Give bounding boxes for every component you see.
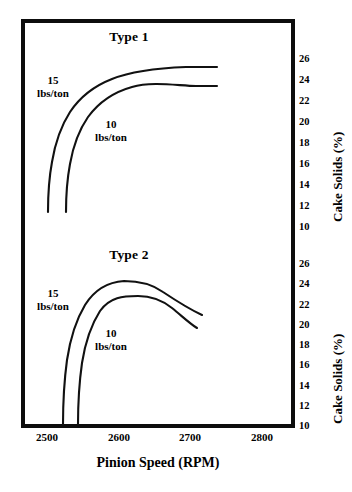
- y-tick-type1-22: 22: [299, 95, 321, 106]
- y-tick-type1-10: 10: [299, 221, 321, 232]
- annotation-type1-15lbs-unit: lbs/ton: [37, 87, 69, 99]
- annotation-type1-10lbs: 10 lbs/ton: [84, 118, 138, 143]
- annotation-type2-15lbs: 15 lbs/ton: [26, 287, 80, 312]
- y-tick-type2-12: 12: [299, 400, 321, 411]
- y-tick-type1-14: 14: [299, 179, 321, 190]
- annotation-type2-10lbs-unit: lbs/ton: [95, 340, 127, 352]
- figure: Type 1 Type 2 15 lbs/ton 10 lbs/ton 15 l…: [0, 0, 352, 492]
- x-tick-2500: 2500: [25, 431, 69, 443]
- y-tick-type2-22: 22: [299, 299, 321, 310]
- x-axis-title: Pinion Speed (RPM): [41, 455, 275, 471]
- x-tick-2800: 2800: [240, 431, 284, 443]
- y-tick-type2-14: 14: [299, 380, 321, 391]
- panel-title-type-1: Type 1: [84, 29, 174, 45]
- panel-title-type-2: Type 2: [84, 247, 174, 263]
- annotation-type2-15lbs-value: 15: [48, 287, 59, 299]
- annotation-type1-10lbs-unit: lbs/ton: [95, 131, 127, 143]
- x-tick-2700: 2700: [168, 431, 212, 443]
- y-axis-title-type-2: Cake Solids (%): [330, 334, 346, 424]
- y-tick-type2-26: 26: [299, 258, 321, 269]
- y-tick-type1-16: 16: [299, 158, 321, 169]
- annotation-type2-10lbs-value: 10: [106, 327, 117, 339]
- y-tick-type1-20: 20: [299, 116, 321, 127]
- annotation-type2-10lbs: 10 lbs/ton: [84, 327, 138, 352]
- y-tick-type1-24: 24: [299, 74, 321, 85]
- annotation-type1-10lbs-value: 10: [106, 118, 117, 130]
- y-axis-title-type-1: Cake Solids (%): [330, 132, 346, 222]
- annotation-type1-15lbs: 15 lbs/ton: [26, 74, 80, 99]
- y-tick-type1-12: 12: [299, 200, 321, 211]
- y-tick-type2-18: 18: [299, 339, 321, 350]
- curve-type1-10lbs: [66, 84, 217, 212]
- y-tick-type2-24: 24: [299, 278, 321, 289]
- y-tick-type1-26: 26: [299, 53, 321, 64]
- y-tick-type2-20: 20: [299, 319, 321, 330]
- curve-type2-10lbs: [78, 296, 197, 425]
- annotation-type2-15lbs-unit: lbs/ton: [37, 300, 69, 312]
- annotation-type1-15lbs-value: 15: [48, 74, 59, 86]
- y-tick-type2-16: 16: [299, 359, 321, 370]
- y-tick-type1-18: 18: [299, 137, 321, 148]
- x-tick-2600: 2600: [97, 431, 141, 443]
- y-tick-type2-10: 10: [299, 420, 321, 431]
